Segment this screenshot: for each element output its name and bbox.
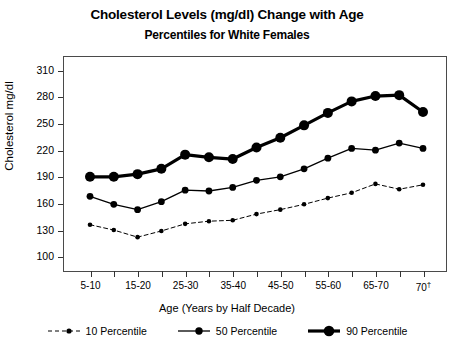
data-point [135,235,140,240]
y-axis-tick [58,124,63,125]
x-axis-tick-label: 70† [394,280,454,293]
data-point [183,222,188,227]
series-90-percentile [85,90,428,182]
x-axis-tick [424,271,425,277]
y-axis-tick [58,177,63,178]
data-point [323,108,333,118]
y-axis-tick-label: 250 [14,117,54,129]
data-point [347,96,357,106]
legend-swatch-icon [177,325,211,337]
y-axis-tick-label: 280 [14,90,54,102]
x-axis-tick [114,271,115,277]
y-axis-tick [58,231,63,232]
plot-area [63,56,447,272]
x-axis-title: Age (Years by Half Decade) [0,302,454,314]
data-point [111,228,116,233]
x-axis-tick [376,271,377,277]
data-point [349,190,354,195]
legend-item: 50 Percentile [177,325,277,337]
legend-item: 90 Percentile [307,325,407,337]
y-axis-tick-label: 160 [14,197,54,209]
data-point [418,107,428,117]
x-axis-tick [91,271,92,277]
chart-figure: Cholesterol Levels (mg/dl) Change with A… [0,0,454,352]
series-canvas [64,57,445,270]
data-point [301,165,308,172]
data-point [85,172,95,182]
data-point [373,182,378,187]
legend-swatch-icon [47,325,81,337]
legend-swatch-icon [307,325,341,337]
data-point [324,155,331,162]
y-axis-tick-label: 310 [14,64,54,76]
data-point [348,145,355,152]
x-axis-tick [162,271,163,277]
data-point [277,173,284,180]
legend-item: 10 Percentile [47,325,147,337]
x-axis-tick [186,271,187,277]
data-point [229,184,236,191]
data-point [88,222,93,227]
y-axis-tick-label: 190 [14,170,54,182]
data-point [230,218,235,223]
data-point [110,201,117,208]
data-point [156,164,166,174]
y-axis-tick-label: 130 [14,224,54,236]
x-axis-tick [281,271,282,277]
x-axis-tick [352,271,353,277]
data-point [275,133,285,143]
data-point [206,188,213,195]
chart-legend: 10 Percentile50 Percentile90 Percentile [0,325,454,337]
legend-label: 10 Percentile [86,325,147,337]
data-point [278,207,283,212]
y-axis-tick [58,257,63,258]
x-axis-tick [257,271,258,277]
data-point [207,219,212,224]
y-axis-tick-label: 100 [14,250,54,262]
data-point [252,143,262,153]
y-axis-tick [58,204,63,205]
x-axis-tick [400,271,401,277]
data-point [109,172,119,182]
chart-subtitle: Percentiles for White Females [0,28,454,42]
data-point [326,196,331,201]
legend-label: 90 Percentile [346,325,407,337]
data-point [204,152,214,162]
data-point [180,150,190,160]
data-point [397,187,402,192]
data-point [370,91,380,101]
y-axis-tick [58,151,63,152]
data-point [87,193,94,200]
data-point [182,187,189,194]
data-point [158,198,165,205]
y-axis-tick [58,97,63,98]
data-point [159,229,164,234]
legend-label: 50 Percentile [216,325,277,337]
y-axis-tick [58,71,63,72]
data-point [302,202,307,207]
series-line [90,95,423,177]
data-point [228,154,238,164]
data-point [421,183,426,188]
data-point [420,145,427,152]
data-point [396,140,403,147]
data-point [134,206,141,213]
data-point [299,120,309,130]
x-axis-tick [209,271,210,277]
data-point [253,177,260,184]
x-axis-tick [138,271,139,277]
data-point [394,90,404,100]
y-axis-tick-label: 220 [14,144,54,156]
data-point [254,212,259,217]
data-point [372,147,379,154]
x-axis-tick [328,271,329,277]
x-axis-tick [233,271,234,277]
chart-title: Cholesterol Levels (mg/dl) Change with A… [0,7,454,22]
x-axis-tick [305,271,306,277]
data-point [133,169,143,179]
